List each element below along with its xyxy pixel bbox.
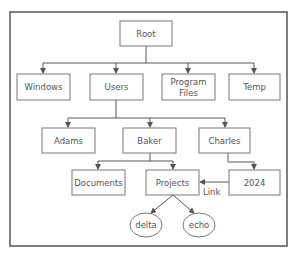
node-users[interactable]: Users <box>90 74 143 100</box>
node-program-files[interactable]: Program Files <box>162 74 215 100</box>
node-program-files-label-2: Files <box>179 88 198 98</box>
directory-tree-diagram: Link Root Windows Users Program Files Te… <box>0 0 297 257</box>
node-adams[interactable]: Adams <box>42 128 95 153</box>
node-temp-label: Temp <box>242 82 266 92</box>
node-windows-label: Windows <box>25 82 64 92</box>
node-2024[interactable]: 2024 <box>229 170 280 195</box>
node-charles-label: Charles <box>208 136 241 146</box>
node-projects[interactable]: Projects <box>146 170 199 195</box>
node-windows[interactable]: Windows <box>17 74 70 100</box>
link-label: Link <box>203 187 220 197</box>
node-charles[interactable]: Charles <box>199 128 250 153</box>
node-baker-label: Baker <box>137 136 162 146</box>
node-documents[interactable]: Documents <box>72 170 125 195</box>
node-documents-label: Documents <box>74 178 123 188</box>
node-projects-label: Projects <box>156 178 190 188</box>
node-temp[interactable]: Temp <box>229 74 280 100</box>
node-echo-label: echo <box>189 220 210 230</box>
node-program-files-label-1: Program <box>171 77 207 87</box>
node-echo[interactable]: echo <box>183 213 215 237</box>
node-root-label: Root <box>136 29 156 39</box>
node-adams-label: Adams <box>54 136 84 146</box>
node-delta[interactable]: delta <box>130 213 162 237</box>
node-delta-label: delta <box>135 220 157 230</box>
node-users-label: Users <box>105 82 129 92</box>
node-2024-label: 2024 <box>244 178 266 188</box>
node-baker[interactable]: Baker <box>123 128 176 153</box>
node-root[interactable]: Root <box>120 21 172 46</box>
